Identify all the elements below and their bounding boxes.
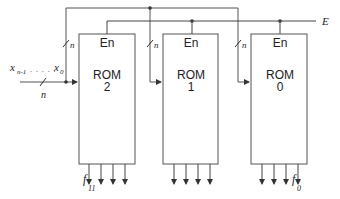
bus-width-label: n (41, 89, 46, 100)
rom-1-en-label: En (184, 36, 199, 50)
rom-0-en-label: En (273, 36, 288, 50)
input-label-dots: . . . . . (30, 66, 57, 73)
rom-diagram: En ROM 2 En ROM 1 En ROM 0 E n n n n x n… (0, 0, 340, 199)
rom-2-en-label: En (100, 36, 115, 50)
rom-1-index: 1 (188, 80, 195, 94)
bus-width-label: n (70, 40, 75, 50)
rom-2-index: 2 (104, 80, 111, 94)
rom-0-index: 0 (277, 80, 284, 94)
enable-label: E (321, 15, 329, 27)
input-label-x: x (9, 61, 15, 73)
output-label-f11-sub: 11 (88, 184, 95, 193)
bus-width-label: n (242, 40, 247, 50)
output-label-f0-sub: 0 (297, 184, 301, 193)
input-label-x-last: x (53, 61, 59, 73)
rom-0-box (251, 34, 307, 164)
bus-width-label: n (154, 40, 159, 50)
rom-2-box (79, 34, 135, 164)
rom-1-box (163, 34, 218, 164)
input-label-sub-first: n-1 (17, 68, 26, 76)
input-label-sub-last: 0 (60, 68, 64, 76)
output-arrows (89, 164, 298, 184)
enable-line (107, 21, 316, 34)
